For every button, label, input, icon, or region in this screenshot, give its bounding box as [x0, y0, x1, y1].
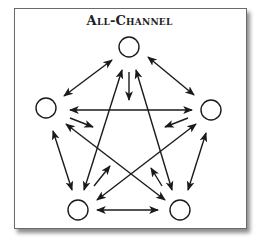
double-arrow-left-bottom-left: [53, 131, 72, 190]
node-bottom-left: [68, 200, 88, 220]
node-left: [36, 98, 56, 118]
node-right: [201, 100, 221, 120]
double-arrow-top-left: [64, 60, 112, 96]
arrow-bottom-left-center: [94, 166, 110, 186]
arrow-left-center: [70, 118, 93, 127]
arrow-bottom-right-center: [151, 168, 162, 186]
double-arrow-bottom-left-top: [84, 70, 122, 190]
nodes-group: [36, 37, 221, 220]
double-arrow-right-bottom-right: [188, 133, 206, 190]
arrow-right-center: [165, 118, 188, 127]
double-arrow-right-bottom-left: [97, 124, 196, 200]
double-arrow-top-right: [148, 57, 194, 95]
node-bottom-right: [170, 200, 190, 220]
node-top: [119, 37, 139, 57]
all-channel-network: [0, 0, 259, 242]
double-arrow-left-bottom-right: [66, 124, 165, 200]
edges-group: [53, 57, 206, 210]
